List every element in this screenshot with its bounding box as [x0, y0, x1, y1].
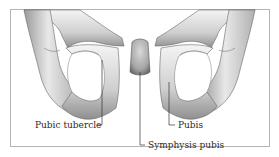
right-pubic-bone: [155, 10, 255, 119]
left-pubic-bone: [24, 10, 124, 119]
anatomy-figure: Pubic tubercle Pubis Symphysis pubis: [0, 0, 279, 157]
label-symphysis-pubis: Symphysis pubis: [148, 140, 224, 150]
label-pubic-tubercle: Pubic tubercle: [35, 120, 101, 130]
symphysis-disc: [130, 39, 150, 75]
leader-symphysis-pubis: [140, 72, 145, 145]
pelvis-illustration: [0, 0, 279, 157]
label-pubis: Pubis: [178, 120, 203, 130]
